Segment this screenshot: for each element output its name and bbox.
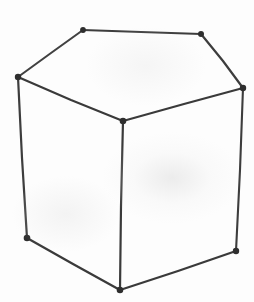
left-vertical-edge — [18, 77, 27, 238]
top-back-edge — [83, 30, 201, 34]
top-back-right-vertex — [198, 31, 204, 37]
bottom-right-vertex — [233, 248, 239, 254]
right-vertical-edge — [236, 88, 243, 251]
top-right-upper-edge — [201, 34, 243, 88]
cube-wireframe-svg — [0, 0, 254, 302]
cube-drawing-canvas — [0, 0, 254, 302]
center-vertical-edge — [120, 121, 123, 290]
top-right-diagonal-edge — [123, 88, 243, 121]
bottom-left-vertex — [24, 235, 31, 242]
top-front-center-vertex — [120, 118, 127, 125]
bottom-front-center-vertex — [117, 287, 124, 294]
top-back-left-vertex — [80, 27, 86, 33]
top-left-diagonal-edge — [18, 77, 123, 121]
top-left-vertex — [15, 74, 21, 80]
cube-vertices-group — [15, 27, 246, 293]
top-left-upper-edge — [18, 30, 83, 77]
bottom-right-edge — [120, 251, 236, 290]
cube-edges-group — [18, 30, 243, 290]
bottom-left-edge — [27, 238, 120, 290]
top-right-vertex — [240, 85, 246, 91]
